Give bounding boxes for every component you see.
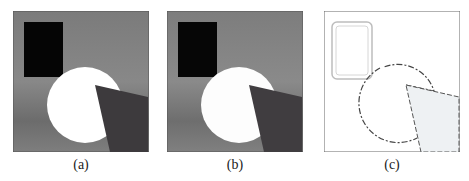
panel-a-image [13,11,149,152]
panel-c-svg [324,11,460,152]
panel-c-image [324,11,460,152]
panel-b-image [167,11,303,152]
panel-b-svg [167,11,303,152]
caption-c: (c) [324,156,460,174]
black-rectangle [178,22,217,77]
caption-a: (a) [13,156,149,174]
caption-b: (b) [167,156,303,174]
black-rectangle [24,22,63,77]
panel-a-svg [13,11,149,152]
